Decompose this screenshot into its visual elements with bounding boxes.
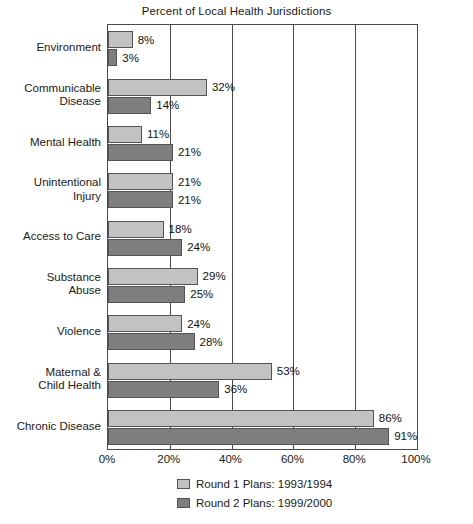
legend-label: Round 2 Plans: 1999/2000 [196, 497, 332, 509]
light-gray-swatch [177, 479, 190, 489]
bar-group: 8% [108, 31, 417, 48]
x-tick-label: 100% [393, 453, 439, 465]
legend-label: Round 1 Plans: 1993/1994 [196, 478, 332, 490]
x-tick-label: 60% [269, 453, 315, 465]
bar[interactable] [108, 428, 389, 445]
category-label: Environment [0, 41, 101, 55]
bar-value-label: 21% [178, 146, 201, 158]
bar-group: 21% [108, 173, 417, 190]
x-tick-label: 40% [208, 453, 254, 465]
category-label: Maternal &Child Health [0, 366, 101, 393]
bar[interactable] [108, 286, 185, 303]
category-label-line: Mental Health [0, 136, 101, 150]
bar-group: 21% [108, 144, 417, 161]
bar-value-label: 21% [178, 176, 201, 188]
bar-value-label: 11% [147, 128, 169, 140]
bar-group: 86% [108, 410, 417, 427]
bar-group: 32% [108, 79, 417, 96]
category-label-line: Violence [0, 325, 101, 339]
bar-value-label: 24% [187, 318, 210, 330]
category-label: Violence [0, 325, 101, 339]
category-label-line: Disease [0, 95, 101, 109]
x-tick-label: 0% [84, 453, 130, 465]
dark-gray-swatch [177, 498, 190, 508]
bar-group: 11% [108, 126, 417, 143]
category-label-line: Injury [0, 190, 101, 204]
bar-group: 25% [108, 286, 417, 303]
category-label-line: Chronic Disease [0, 420, 101, 434]
bar-value-label: 24% [187, 241, 210, 253]
legend-item[interactable]: Round 1 Plans: 1993/1994 [0, 474, 473, 493]
category-label-line: Environment [0, 41, 101, 55]
plot-area: 8%3%32%14%11%21%21%21%18%24%29%25%24%28%… [107, 24, 418, 450]
bar[interactable] [108, 144, 173, 161]
bar[interactable] [108, 126, 142, 143]
bar-value-label: 53% [277, 365, 300, 377]
category-label: CommunicableDisease [0, 82, 101, 109]
category-label-line: Communicable [0, 82, 101, 96]
bar[interactable] [108, 173, 173, 190]
bar[interactable] [108, 381, 219, 398]
bar-value-label: 21% [178, 194, 201, 206]
chart-title: Percent of Local Health Jurisdictions [0, 5, 473, 17]
bar-value-label: 18% [169, 223, 192, 235]
bar-value-label: 28% [200, 336, 223, 348]
bar[interactable] [108, 79, 207, 96]
legend-item[interactable]: Round 2 Plans: 1999/2000 [0, 493, 473, 512]
bar-value-label: 25% [190, 288, 213, 300]
bar-value-label: 36% [224, 383, 247, 395]
category-label-line: Abuse [0, 284, 101, 298]
bar-value-label: 32% [212, 81, 235, 93]
bar[interactable] [108, 410, 374, 427]
bar-group: 24% [108, 315, 417, 332]
bar[interactable] [108, 97, 151, 114]
bar-group: 53% [108, 363, 417, 380]
bar-group: 28% [108, 333, 417, 350]
bar[interactable] [108, 268, 198, 285]
bar[interactable] [108, 49, 117, 66]
bar-value-label: 91% [394, 430, 417, 442]
bar-group: 21% [108, 191, 417, 208]
category-label: Chronic Disease [0, 420, 101, 434]
bar[interactable] [108, 191, 173, 208]
chart-legend: Round 1 Plans: 1993/1994Round 2 Plans: 1… [0, 474, 473, 512]
category-label: Mental Health [0, 136, 101, 150]
category-label-line: Unintentional [0, 176, 101, 190]
category-label-line: Child Health [0, 379, 101, 393]
bar[interactable] [108, 315, 182, 332]
x-tick-label: 80% [331, 453, 377, 465]
category-label: UnintentionalInjury [0, 176, 101, 203]
bar-value-label: 29% [203, 270, 226, 282]
category-axis-labels: EnvironmentCommunicableDiseaseMental Hea… [0, 24, 101, 450]
category-label-line: Substance [0, 271, 101, 285]
bar[interactable] [108, 239, 182, 256]
category-label-line: Access to Care [0, 230, 101, 244]
category-label: SubstanceAbuse [0, 271, 101, 298]
bar[interactable] [108, 363, 272, 380]
bar-value-label: 86% [379, 412, 402, 424]
bar-value-label: 3% [122, 52, 139, 64]
bar[interactable] [108, 221, 164, 238]
bar-group: 3% [108, 49, 417, 66]
bar-group: 36% [108, 381, 417, 398]
bar-group: 18% [108, 221, 417, 238]
bar[interactable] [108, 31, 133, 48]
bar-group: 29% [108, 268, 417, 285]
bar-value-label: 8% [138, 34, 155, 46]
category-label-line: Maternal & [0, 366, 101, 380]
bar[interactable] [108, 333, 195, 350]
bar-group: 91% [108, 428, 417, 445]
category-label: Access to Care [0, 230, 101, 244]
x-axis-labels: 0%20%40%60%80%100% [0, 453, 473, 469]
bar-group: 24% [108, 239, 417, 256]
x-tick-label: 20% [146, 453, 192, 465]
bar-group: 14% [108, 97, 417, 114]
bar-value-label: 14% [156, 99, 179, 111]
